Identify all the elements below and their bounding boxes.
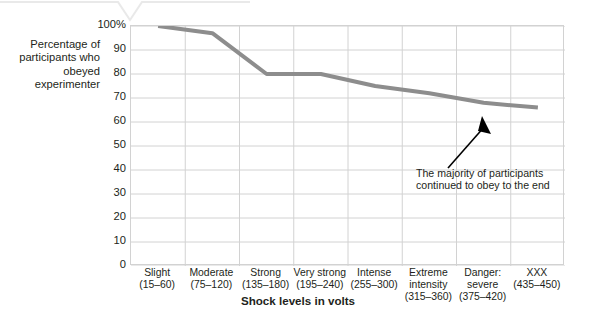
y-axis-tick-labels: 100%9080706050403020100 — [84, 0, 126, 315]
x-tick-name: Intense — [347, 267, 401, 279]
x-tick-name: Strong — [239, 267, 293, 279]
y-tick-label: 90 — [84, 43, 126, 54]
y-tick-label: 60 — [84, 115, 126, 126]
x-tick-range: (135–180) — [239, 279, 293, 291]
x-tick-name: Danger: severe — [456, 267, 510, 291]
x-tick-label: Intense(255–300) — [347, 267, 401, 291]
x-tick-label: Slight(15–60) — [130, 267, 184, 291]
y-tick-label: 40 — [84, 163, 126, 174]
x-tick-label: Strong(135–180) — [239, 267, 293, 291]
x-tick-name: Slight — [130, 267, 184, 279]
plot-area — [130, 25, 564, 265]
y-tick-label: 80 — [84, 67, 126, 78]
x-tick-label: XXX(435–450) — [510, 267, 564, 291]
x-tick-name: XXX — [510, 267, 564, 279]
y-tick-label: 10 — [84, 235, 126, 246]
x-tick-range: (75–120) — [184, 279, 238, 291]
x-tick-range: (435–450) — [510, 279, 564, 291]
x-axis-title: Shock levels in volts — [0, 294, 596, 307]
x-tick-label: Very strong(195–240) — [293, 267, 347, 291]
y-tick-label: 70 — [84, 91, 126, 102]
chart-annotation: The majority of participants continued t… — [416, 167, 566, 192]
x-tick-name: Moderate — [184, 267, 238, 279]
x-tick-range: (255–300) — [347, 279, 401, 291]
y-tick-label: 100% — [84, 19, 126, 30]
chart-figure: Percentage of participants who obeyed ex… — [0, 0, 596, 315]
y-tick-label: 0 — [84, 259, 126, 270]
x-tick-range: (195–240) — [293, 279, 347, 291]
x-tick-name: Extreme intensity — [401, 267, 455, 291]
y-tick-label: 20 — [84, 211, 126, 222]
x-tick-label: Moderate(75–120) — [184, 267, 238, 291]
chart-canvas — [131, 26, 565, 266]
y-tick-label: 30 — [84, 187, 126, 198]
x-tick-name: Very strong — [293, 267, 347, 279]
y-tick-label: 50 — [84, 139, 126, 150]
x-tick-range: (15–60) — [130, 279, 184, 291]
